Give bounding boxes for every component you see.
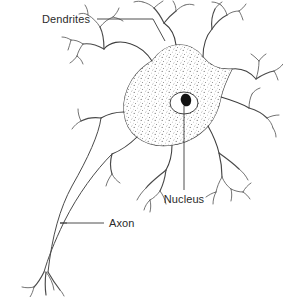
neuron-diagram: Dendrites Nucleus Axon bbox=[0, 0, 283, 297]
label-axon: Axon bbox=[109, 217, 134, 229]
label-dendrites: Dendrites bbox=[42, 13, 90, 25]
dendrite-lower-left bbox=[106, 154, 120, 186]
dendrite-right-upper bbox=[251, 54, 283, 80]
axon bbox=[22, 118, 112, 297]
leader-line-dendrites bbox=[97, 19, 165, 41]
dendrite-upper-middle bbox=[134, 1, 194, 23]
dendrite-right-lower bbox=[249, 88, 279, 137]
dendrite-lower-middle bbox=[137, 170, 166, 212]
dendrite-lower-right bbox=[206, 153, 251, 204]
label-nucleus: Nucleus bbox=[164, 193, 205, 205]
dendrite-left bbox=[72, 109, 101, 129]
dendrite-upper-right bbox=[212, 2, 246, 29]
neuron-illustration: Dendrites Nucleus Axon bbox=[0, 0, 283, 297]
